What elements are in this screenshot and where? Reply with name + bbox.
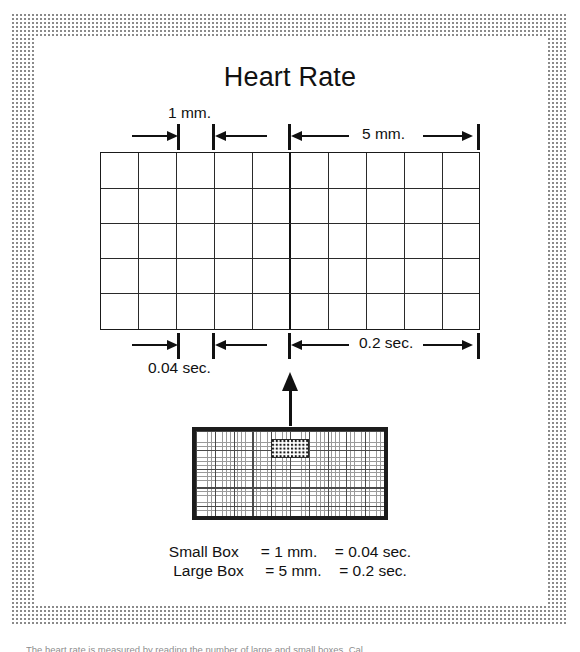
dim-tick-004sec-start: [177, 333, 180, 359]
grid-line-vertical: [366, 153, 367, 329]
label-1mm: 1 mm.: [168, 104, 211, 122]
label-02sec: 0.2 sec.: [359, 334, 413, 352]
legend-large-box-name: Large Box: [173, 562, 265, 580]
dim-shaft-5mm-right: [423, 135, 465, 137]
calibration-grid: [100, 152, 480, 330]
grid-line-vertical: [328, 153, 329, 329]
dim-shaft-02sec-left: [301, 344, 349, 346]
figure-page: Heart Rate 1 mm. 5 mm.: [0, 0, 580, 652]
ecg-paper-strip: [192, 427, 388, 520]
label-004sec: 0.04 sec.: [148, 359, 211, 377]
dim-shaft-004sec-right: [225, 344, 267, 346]
grid-line-vertical: [176, 153, 177, 329]
grid-line-horizontal: [101, 188, 479, 189]
top-dimension-annotations: 1 mm. 5 mm.: [0, 112, 580, 156]
dim-shaft-02sec-right: [423, 344, 465, 346]
legend-small-box-size: = 1 mm.: [261, 543, 335, 561]
legend-row-large-box: Large Box= 5 mm.= 0.2 sec.: [0, 562, 580, 580]
grid-line-vertical: [214, 153, 215, 329]
dim-tick-02sec-end: [477, 333, 480, 359]
grid-line-vertical: [442, 153, 443, 329]
dim-shaft-5mm-left: [301, 135, 349, 137]
grid-line-horizontal: [101, 293, 479, 294]
grid-line-vertical: [404, 153, 405, 329]
dim-tick-5mm-end: [477, 124, 480, 150]
dim-shaft-1mm-right: [225, 135, 267, 137]
dim-shaft-1mm-left: [132, 135, 170, 137]
page-caption-cutoff: The heart rate is measured by reading th…: [26, 644, 554, 652]
dim-arrowhead-right-02sec: [462, 340, 473, 350]
legend-small-box-name: Small Box: [169, 543, 261, 561]
magnify-pointer-shaft: [289, 388, 292, 426]
grid-line-vertical: [252, 153, 253, 329]
ecg-paper-highlighted-region: [271, 439, 309, 458]
bottom-dimension-annotations: 0.04 sec. 0.2 sec.: [0, 333, 580, 377]
dim-shaft-004sec-left: [132, 344, 170, 346]
label-5mm: 5 mm.: [362, 125, 405, 143]
grid-line-horizontal: [101, 258, 479, 259]
page-title: Heart Rate: [0, 62, 580, 93]
dim-arrowhead-right-5mm: [462, 131, 473, 141]
dim-tick-1mm-start: [177, 124, 180, 150]
grid-line-vertical: [138, 153, 139, 329]
legend-small-box-time: = 0.04 sec.: [335, 543, 411, 561]
legend-large-box-size: = 5 mm.: [265, 562, 339, 580]
grid-line-horizontal: [101, 223, 479, 224]
grid-line-vertical-heavy: [289, 153, 291, 329]
legend-large-box-time: = 0.2 sec.: [339, 562, 407, 580]
legend-row-small-box: Small Box= 1 mm.= 0.04 sec.: [0, 543, 580, 561]
